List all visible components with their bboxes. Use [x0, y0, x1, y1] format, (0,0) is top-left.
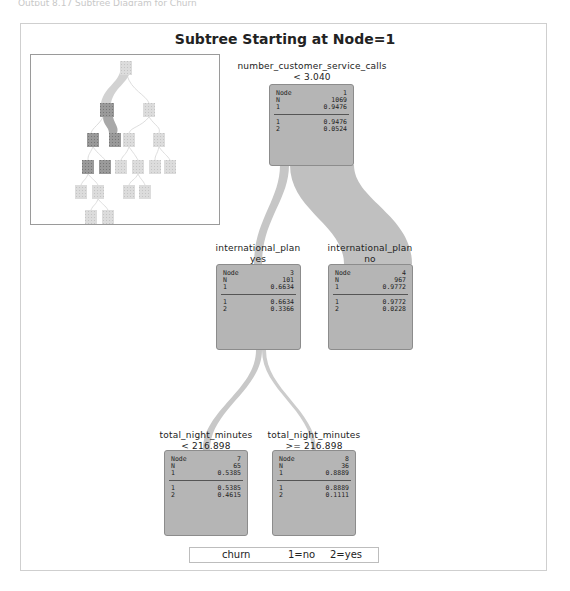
class-2-row: 20.3366	[223, 306, 294, 313]
label: 1	[223, 284, 227, 291]
node-pred-row: 10.5385	[171, 470, 241, 477]
node8-split-label: total_night_minutes >= 216.898	[254, 430, 374, 452]
divider	[221, 294, 296, 295]
node7-split-label: total_night_minutes < 216.898	[146, 430, 266, 452]
value: 0.1111	[326, 492, 349, 499]
label: 2	[335, 306, 339, 313]
tree-node-7[interactable]: Node7 N65 10.5385 10.5385 20.4615	[164, 450, 248, 536]
tree-node-4[interactable]: Node4 N967 10.9772 10.9772 20.0228	[328, 264, 413, 350]
legend-variable: churn	[222, 549, 250, 560]
class-2-row: 20.4615	[171, 492, 241, 499]
class-2-row: 20.0524	[276, 126, 347, 133]
divider	[169, 480, 243, 481]
node-pred-row: 10.9476	[276, 104, 347, 111]
tree-node-8[interactable]: Node8 N36 10.8889 10.8889 20.1111	[272, 450, 356, 536]
node3-split-label: international_plan yes	[198, 243, 318, 265]
tree-node-1[interactable]: Node1 N1069 10.9476 10.9476 20.0524	[269, 84, 354, 166]
label: 2	[223, 306, 227, 313]
node-pred-row: 10.9772	[335, 284, 406, 291]
split-variable: number_customer_service_calls	[232, 61, 392, 72]
node4-split-label: international_plan no	[310, 243, 430, 265]
class-2-row: 20.0228	[335, 306, 406, 313]
split-variable: total_night_minutes	[146, 430, 266, 441]
split-variable: international_plan	[310, 243, 430, 254]
node-id-row: Node8	[279, 456, 349, 463]
split-variable: international_plan	[198, 243, 318, 254]
label: 1	[171, 470, 175, 477]
node-pred-row: 10.6634	[223, 284, 294, 291]
value: 0.4615	[218, 492, 241, 499]
value: 0.9476	[324, 104, 347, 111]
divider	[274, 114, 349, 115]
legend-level-2: 2=yes	[330, 549, 362, 560]
divider	[277, 480, 351, 481]
label: 2	[276, 126, 280, 133]
label: 1	[276, 104, 280, 111]
node-id-row: Node7	[171, 456, 241, 463]
value: 0.8889	[326, 470, 349, 477]
value: 0.0228	[383, 306, 406, 313]
label: 1	[335, 284, 339, 291]
value: 0.5385	[218, 470, 241, 477]
legend-level-1: 1=no	[288, 549, 315, 560]
value: 0.6634	[271, 284, 294, 291]
label: 2	[279, 492, 283, 499]
value: 0.0524	[324, 126, 347, 133]
divider	[333, 294, 408, 295]
split-variable: total_night_minutes	[254, 430, 374, 441]
node-pred-row: 10.8889	[279, 470, 349, 477]
legend: churn 1=no 2=yes	[189, 547, 379, 563]
root-split-label: number_customer_service_calls < 3.040	[232, 61, 392, 83]
value: 0.3366	[271, 306, 294, 313]
class-2-row: 20.1111	[279, 492, 349, 499]
split-rule: < 3.040	[232, 72, 392, 83]
tree-node-3[interactable]: Node3 N101 10.6634 10.6634 20.3366	[216, 264, 301, 350]
value: 0.9772	[383, 284, 406, 291]
label: 1	[279, 470, 283, 477]
label: 2	[171, 492, 175, 499]
